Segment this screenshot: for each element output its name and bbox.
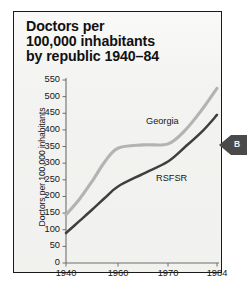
y-tick-label: 300 [30, 157, 60, 167]
left-pointing-tab-marker[interactable]: B [218, 131, 247, 159]
x-tick-label: 1940 [46, 268, 86, 278]
y-tick-label: 400 [30, 124, 60, 134]
y-tick-label: 450 [30, 107, 60, 117]
y-tick-label: 150 [30, 207, 60, 217]
axes-group [63, 78, 220, 267]
y-tick-label: 100 [30, 224, 60, 234]
series-group [66, 88, 217, 233]
y-tick-label: 0 [30, 257, 60, 267]
x-tick-label: 1984 [197, 268, 237, 278]
y-tick-label: 250 [30, 174, 60, 184]
x-tick-label: 1960 [98, 268, 138, 278]
chart-panel: Doctors per 100,000 inhabitants by repub… [13, 11, 222, 273]
series-line-rsfsr [66, 115, 217, 233]
y-tick-label: 350 [30, 141, 60, 151]
series-label-rsfsr: RSFSR [156, 173, 187, 183]
y-tick-label: 50 [30, 240, 60, 250]
x-tick-label: 1970 [148, 268, 188, 278]
y-tick-label: 550 [30, 74, 60, 84]
series-line-georgia [66, 88, 217, 214]
series-label-georgia: Georgia [146, 116, 179, 126]
y-tick-label: 200 [30, 190, 60, 200]
figure-root: Doctors per 100,000 inhabitants by repub… [0, 0, 247, 286]
tab-letter: B [234, 139, 240, 149]
plot-area: Doctors per 100,000 inhabitants 05010015… [14, 12, 221, 272]
left-arrow-icon [218, 131, 247, 159]
y-tick-label: 500 [30, 91, 60, 101]
